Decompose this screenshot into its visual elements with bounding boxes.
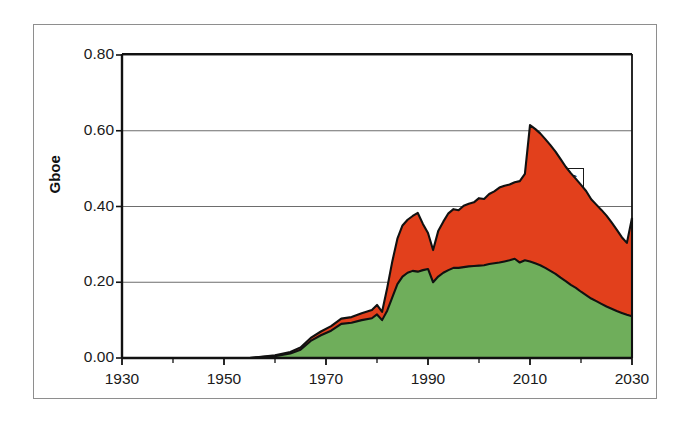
chart-figure: Gboe 0.000.200.400.600.80 19301950197019… bbox=[0, 0, 690, 423]
stacked-area-plot bbox=[0, 0, 690, 423]
